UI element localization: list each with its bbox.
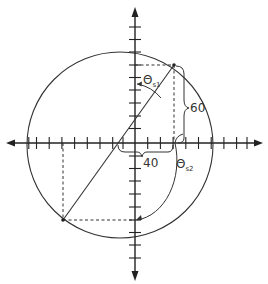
point-lower-left bbox=[61, 218, 65, 222]
mohr-circle-diagram: Θs1 60 40 Θs2 bbox=[0, 0, 268, 284]
horizontal-dimension-label: 40 bbox=[143, 156, 158, 170]
x-axis-right-arrow-icon bbox=[254, 140, 263, 147]
point-upper-right bbox=[172, 63, 176, 67]
y-axis-up-arrow-icon bbox=[132, 7, 139, 17]
theta-s1-arrowhead-icon bbox=[137, 82, 142, 87]
mohr-circle bbox=[27, 52, 213, 238]
vertical-dimension-label: 60 bbox=[190, 101, 205, 115]
theta-s2-arrowhead-icon bbox=[136, 215, 142, 220]
theta-s2-label: Θs2 bbox=[176, 157, 194, 173]
vertical-dimension-brace bbox=[176, 66, 189, 143]
theta-s1-label: Θs1 bbox=[143, 73, 161, 89]
y-axis-down-arrow-icon bbox=[132, 271, 139, 281]
x-axis-left-arrow-icon bbox=[6, 140, 15, 147]
